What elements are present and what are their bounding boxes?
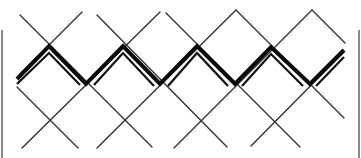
frame-borders xyxy=(2,30,359,158)
lattice-line xyxy=(174,10,312,148)
lattice-line xyxy=(20,15,152,147)
lattice-line xyxy=(17,87,78,148)
lattice-line xyxy=(312,10,345,43)
lattice-zigzag-diagram xyxy=(0,0,361,158)
